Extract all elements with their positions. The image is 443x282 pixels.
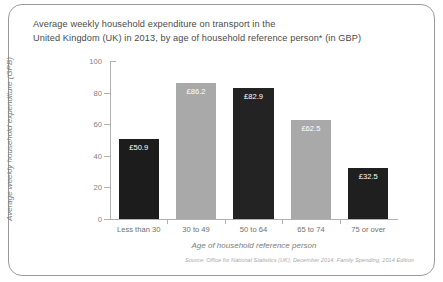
- y-axis-tick: [104, 156, 110, 157]
- y-axis-tick: [104, 187, 110, 188]
- y-axis-tick-label: 20: [94, 183, 102, 192]
- bar[interactable]: £82.9: [233, 88, 273, 219]
- x-axis-category-label: 65 to 74: [282, 225, 339, 234]
- y-axis-tick-label: 0: [98, 215, 102, 224]
- x-axis-category-label: 50 to 64: [225, 225, 282, 234]
- y-axis-tick-label: 100: [89, 57, 102, 66]
- chart-card: Average weekly household expenditure on …: [8, 4, 435, 276]
- y-axis-tick: [104, 124, 110, 125]
- y-axis-title-text: Average weekly household expenditure (GP…: [5, 61, 14, 221]
- bar-value-label: £62.5: [291, 124, 331, 133]
- y-axis-tick-label: 80: [94, 88, 102, 97]
- y-axis-tick: [110, 61, 116, 62]
- y-axis-title: Average weekly household expenditure (GP…: [5, 0, 17, 61]
- y-axis-tick: [104, 219, 110, 220]
- bar[interactable]: £62.5: [291, 120, 331, 219]
- chart-title-line-1: Average weekly household expenditure on …: [33, 18, 403, 32]
- x-axis-line: [110, 219, 398, 220]
- x-axis-category-label: 75 or over: [340, 225, 397, 234]
- x-axis-category-label: 30 to 49: [167, 225, 224, 234]
- chart-title-line-2: United Kingdom (UK) in 2013, by age of h…: [33, 32, 403, 46]
- y-axis-tick: [104, 93, 110, 94]
- bar-value-label: £82.9: [233, 92, 273, 101]
- bar-value-label: £50.9: [119, 143, 159, 152]
- x-axis-category-label: Less than 30: [110, 225, 167, 234]
- chart-title: Average weekly household expenditure on …: [33, 18, 403, 45]
- x-axis-tick: [167, 220, 168, 224]
- x-axis-title: Age of household reference person: [110, 241, 398, 250]
- bar[interactable]: £32.5: [348, 168, 388, 219]
- y-axis-tick-label: 40: [94, 151, 102, 160]
- bar[interactable]: £86.2: [176, 83, 216, 219]
- source-note: Source: Office for National Statistics (…: [185, 257, 414, 263]
- bar-value-label: £86.2: [176, 87, 216, 96]
- x-axis-tick: [225, 220, 226, 224]
- bar-value-label: £32.5: [348, 172, 388, 181]
- x-axis-tick: [282, 220, 283, 224]
- plot-area: 020406080100£50.9£86.2£82.9£62.5£32.5: [110, 61, 397, 219]
- y-axis-tick-label: 60: [94, 120, 102, 129]
- x-axis-tick: [340, 220, 341, 224]
- bar[interactable]: £50.9: [119, 139, 159, 219]
